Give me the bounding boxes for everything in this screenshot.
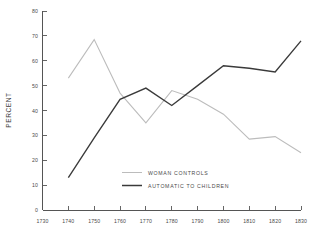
y-axis-title: PERCENT (5, 92, 12, 127)
y-axis: 01020304050607080 PERCENT (5, 8, 47, 213)
line-chart: 01020304050607080 PERCENT 17301740175017… (0, 0, 312, 240)
x-tick-label: 1810 (243, 218, 255, 224)
legend-label-automatic-to-children: AUTOMATIC TO CHILDREN (148, 183, 229, 189)
x-tick-label: 1800 (217, 218, 229, 224)
plot-area (68, 40, 301, 178)
x-tick-label: 1780 (166, 218, 178, 224)
legend-label-woman-controls: WOMAN CONTROLS (148, 170, 209, 176)
x-tick-label: 1760 (114, 218, 126, 224)
x-tick-label: 1830 (295, 218, 307, 224)
y-tick-label: 20 (32, 157, 38, 163)
x-axis: 1730174017501760177017801790180018101820… (36, 206, 307, 225)
y-tick-label: 60 (32, 58, 38, 64)
x-tick-label: 1820 (269, 218, 281, 224)
x-tick-label: 1790 (192, 218, 204, 224)
y-tick-label: 80 (32, 8, 38, 14)
y-tick-label: 10 (32, 182, 38, 188)
x-axis-ticks: 1730174017501760177017801790180018101820… (36, 206, 307, 225)
x-tick-label: 1750 (88, 218, 100, 224)
x-tick-label: 1770 (140, 218, 152, 224)
y-tick-label: 50 (32, 83, 38, 89)
x-tick-label: 1730 (36, 218, 48, 224)
chart-legend: WOMAN CONTROLS AUTOMATIC TO CHILDREN (122, 170, 229, 189)
x-tick-label: 1740 (62, 218, 74, 224)
y-tick-label: 30 (32, 132, 38, 138)
y-tick-label: 40 (32, 108, 38, 114)
y-tick-label: 0 (35, 207, 38, 213)
y-tick-label: 70 (32, 33, 38, 39)
y-axis-ticks: 01020304050607080 (32, 8, 47, 213)
series-line-automatic-to-children (68, 41, 301, 178)
chart-container: 01020304050607080 PERCENT 17301740175017… (0, 0, 312, 240)
